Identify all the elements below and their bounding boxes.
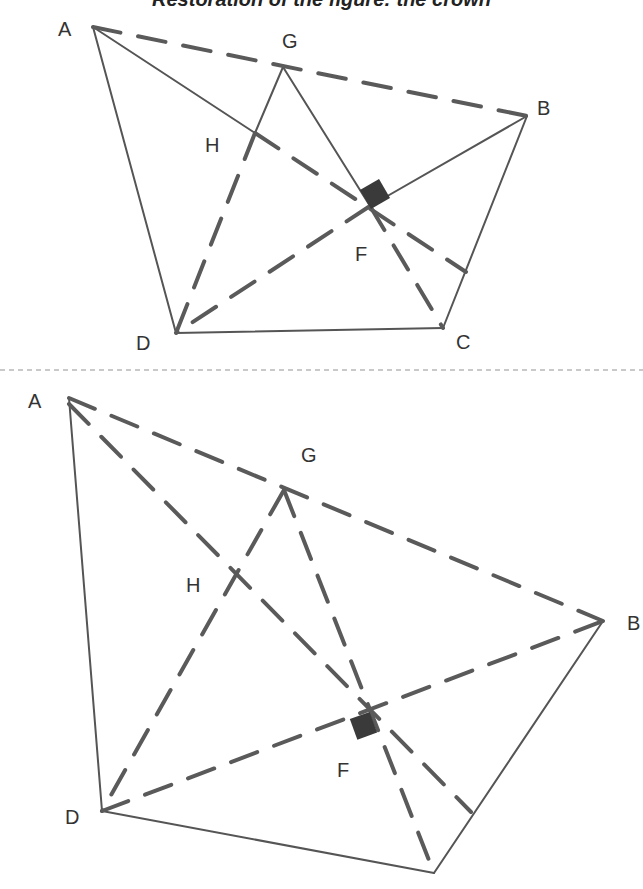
dashed-a-b bbox=[69, 398, 603, 621]
dashed-g-c bbox=[284, 490, 434, 873]
edge-d-c bbox=[102, 811, 434, 873]
dashed-a-e bbox=[69, 404, 471, 812]
edge-d-c bbox=[176, 328, 443, 333]
label-f: F bbox=[337, 759, 349, 781]
dashed-d-b bbox=[102, 621, 603, 811]
geometry-diagram: A G B H F D C A G H B F D bbox=[0, 0, 643, 889]
label-h: H bbox=[186, 574, 200, 596]
label-c: C bbox=[456, 331, 470, 353]
dashed-a-b bbox=[93, 27, 527, 116]
label-a: A bbox=[58, 18, 72, 40]
edge-c-b bbox=[434, 621, 603, 873]
dashed-f-c bbox=[370, 206, 443, 328]
label-d: D bbox=[65, 806, 79, 828]
label-b: B bbox=[627, 612, 640, 634]
label-g: G bbox=[301, 444, 317, 466]
edge-a-d bbox=[69, 398, 102, 811]
edge-g-h bbox=[255, 67, 283, 133]
edge-f-b bbox=[370, 116, 527, 206]
label-g: G bbox=[282, 30, 298, 52]
dashed-h-d bbox=[176, 133, 255, 333]
dashed-g-d bbox=[102, 490, 284, 811]
top-figure: A G B H F D C bbox=[58, 18, 550, 354]
dashed-f-d bbox=[176, 206, 370, 333]
label-b: B bbox=[537, 97, 550, 119]
label-h: H bbox=[205, 134, 219, 156]
label-d: D bbox=[136, 332, 150, 354]
edge-g-f bbox=[283, 67, 370, 206]
right-angle-marker bbox=[360, 179, 390, 209]
label-a: A bbox=[28, 390, 42, 412]
edge-c-b bbox=[443, 116, 527, 328]
label-f: F bbox=[355, 243, 367, 265]
bottom-figure: A G H B F D bbox=[28, 390, 640, 873]
